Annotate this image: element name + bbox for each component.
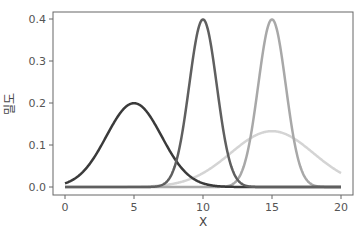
x-tick-label: 10 xyxy=(196,201,210,214)
x-tick-label: 0 xyxy=(62,201,69,214)
y-tick-label: 0.0 xyxy=(29,181,47,194)
y-tick-label: 0.1 xyxy=(29,139,47,152)
y-tick-label: 0.3 xyxy=(29,55,47,68)
x-tick-label: 20 xyxy=(334,201,348,214)
plot-frame xyxy=(53,12,353,195)
y-axis-title: 밀도 xyxy=(3,93,17,115)
x-axis: 05101520 xyxy=(62,195,349,214)
x-axis-title: X xyxy=(199,215,207,229)
y-tick-label: 0.2 xyxy=(29,97,47,110)
x-tick-label: 5 xyxy=(131,201,138,214)
y-tick-label: 0.4 xyxy=(29,13,47,26)
x-tick-label: 15 xyxy=(265,201,279,214)
y-axis: 0.00.10.20.30.4 xyxy=(29,13,54,194)
density-chart: 05101520 0.00.10.20.30.4 X 밀도 xyxy=(0,0,363,239)
